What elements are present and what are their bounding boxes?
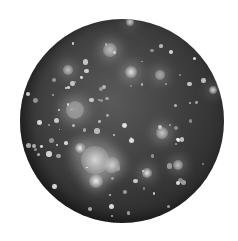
small-crater <box>153 192 156 195</box>
small-crater <box>113 134 115 136</box>
small-crater <box>83 59 88 64</box>
bright-crater <box>125 66 137 78</box>
small-crater <box>70 108 73 111</box>
small-crater <box>94 128 99 133</box>
small-crater <box>54 118 59 123</box>
small-crater <box>74 81 76 83</box>
small-crater <box>174 126 178 130</box>
small-crater <box>109 204 114 209</box>
small-crater <box>105 97 109 101</box>
small-crater <box>26 92 30 96</box>
small-crater <box>56 144 58 146</box>
small-crater <box>84 69 89 74</box>
small-crater <box>67 103 69 105</box>
small-crater <box>179 74 181 76</box>
small-crater <box>176 181 180 185</box>
small-crater <box>141 61 143 63</box>
small-crater <box>123 190 127 194</box>
small-crater <box>165 83 168 86</box>
small-crater <box>169 50 173 54</box>
small-crater <box>33 98 38 103</box>
small-crater <box>52 94 54 96</box>
small-crater <box>64 141 68 145</box>
small-crater <box>37 120 42 125</box>
small-crater <box>141 83 144 86</box>
bright-crater <box>63 65 73 75</box>
small-crater <box>72 124 75 127</box>
small-crater <box>189 119 192 122</box>
small-crater <box>72 42 75 45</box>
small-crater <box>143 187 146 190</box>
small-crater <box>67 86 70 89</box>
small-crater <box>122 123 127 128</box>
small-crater <box>89 98 93 102</box>
small-crater <box>129 138 134 143</box>
small-crater <box>26 143 31 148</box>
small-crater <box>180 137 184 141</box>
small-crater <box>193 57 196 60</box>
small-crater <box>159 44 163 48</box>
small-crater <box>133 179 137 183</box>
bright-crater <box>173 160 183 170</box>
small-crater <box>130 85 132 87</box>
small-crater <box>80 76 83 79</box>
small-crater <box>167 163 172 168</box>
small-crater <box>175 143 178 146</box>
small-crater <box>65 87 67 89</box>
bright-crater <box>209 86 217 94</box>
small-crater <box>48 124 50 126</box>
small-crater <box>169 124 171 126</box>
small-crater <box>201 78 206 83</box>
small-crater <box>99 87 103 91</box>
small-crater <box>142 170 144 172</box>
small-crater <box>37 153 40 156</box>
small-crater <box>109 194 111 196</box>
small-crater <box>83 128 87 132</box>
small-crater <box>46 151 51 156</box>
small-crater <box>151 154 154 157</box>
small-crater <box>150 49 154 53</box>
bright-crater <box>89 174 103 188</box>
small-crater <box>82 145 85 148</box>
small-crater <box>111 177 114 180</box>
small-crater <box>105 43 108 46</box>
moon-sphere <box>20 19 224 223</box>
small-crater <box>187 82 192 87</box>
small-crater <box>176 138 179 141</box>
small-crater <box>167 205 170 208</box>
small-crater <box>52 184 57 189</box>
small-crater <box>88 207 92 211</box>
small-crater <box>100 99 103 102</box>
small-crater <box>34 148 37 151</box>
small-crater <box>189 102 191 104</box>
small-crater <box>111 215 113 217</box>
small-crater <box>174 104 177 107</box>
small-crater <box>98 120 101 123</box>
small-crater <box>106 114 109 117</box>
small-crater <box>52 78 56 82</box>
small-crater <box>40 145 43 148</box>
small-crater <box>127 211 130 214</box>
small-crater <box>49 138 54 143</box>
bright-crater <box>155 70 165 80</box>
bright-crater <box>156 127 168 139</box>
small-crater <box>202 163 204 165</box>
small-crater <box>195 101 198 104</box>
small-crater <box>113 51 116 54</box>
small-crater <box>116 166 121 171</box>
small-crater <box>59 129 61 131</box>
small-crater <box>56 154 60 158</box>
